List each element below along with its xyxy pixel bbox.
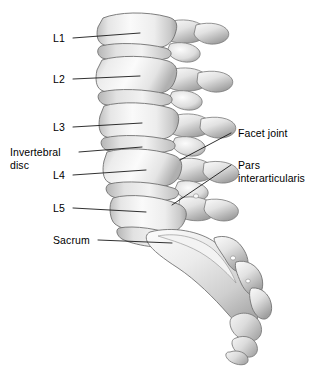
label-pars-line2: interarticularis [238,172,305,185]
label-pars-line1: Pars [238,159,260,172]
label-l4: L4 [53,169,65,182]
label-sacrum: Sacrum [53,234,90,247]
label-l3: L3 [53,121,65,134]
label-l5: L5 [53,202,65,215]
coccyx [226,313,262,365]
label-l2: L2 [53,73,65,86]
label-intervertebral-disc-line2: disc [10,159,29,172]
label-facet-joint: Facet joint [238,127,288,140]
sacrum [146,229,271,326]
label-l1: L1 [53,32,65,45]
label-intervertebral-disc-line1: Invertebral [10,146,61,159]
spine-anatomy-figure: L1 L2 L3 Invertebral disc L4 L5 Sacrum F… [0,0,320,368]
